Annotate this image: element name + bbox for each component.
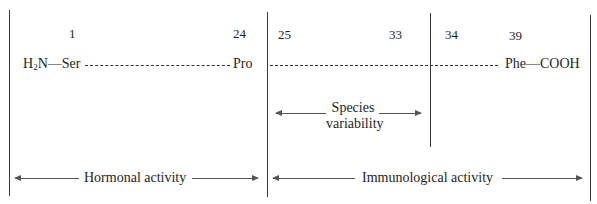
n-terminus-h: H: [23, 56, 33, 71]
chain-dashes-25-39: [270, 65, 498, 66]
immunological-activity-left-arrow: [273, 178, 355, 179]
boundary-line-24-25: [267, 12, 268, 197]
boundary-line-left: [9, 10, 10, 196]
immunological-activity-right-arrow: [502, 178, 582, 179]
hormonal-activity-label: Hormonal activity: [84, 170, 186, 186]
residue-number-34: 34: [445, 28, 458, 42]
n-terminus-ser: N—Ser: [38, 56, 81, 71]
residue-number-25: 25: [278, 28, 291, 42]
residue-number-1: 1: [69, 27, 76, 41]
species-variability-line2: variability: [326, 116, 380, 132]
residue-number-33: 33: [389, 28, 402, 42]
hormonal-activity-right-arrow: [192, 178, 258, 179]
residue-number-24: 24: [233, 27, 246, 41]
boundary-line-right: [590, 15, 591, 201]
residue-number-39: 39: [509, 29, 522, 43]
species-variability-right-arrow: [379, 113, 421, 114]
species-variability-left-arrow: [276, 113, 326, 114]
species-variability-line1: Species: [326, 100, 380, 116]
residue-24-label: Pro: [233, 56, 252, 72]
immunological-activity-label: Immunological activity: [362, 170, 493, 186]
chain-dashes-1-24: [85, 65, 230, 66]
boundary-line-33-34: [430, 13, 431, 147]
species-variability-label: Species variability: [326, 100, 380, 132]
hormonal-activity-left-arrow: [15, 178, 79, 179]
n-terminus-label: H2N—Ser: [23, 56, 80, 75]
c-terminus-label: Phe—COOH: [505, 56, 580, 72]
